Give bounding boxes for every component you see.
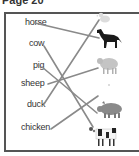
pig-icon (96, 100, 126, 120)
line-pig (42, 67, 97, 113)
line-sheep (48, 68, 98, 84)
dot-marker (108, 84, 110, 86)
cow-icon (88, 124, 120, 150)
sheep-icon (96, 56, 120, 76)
horse-icon (94, 28, 124, 50)
duck-icon (96, 12, 112, 24)
line-cow (44, 46, 93, 127)
